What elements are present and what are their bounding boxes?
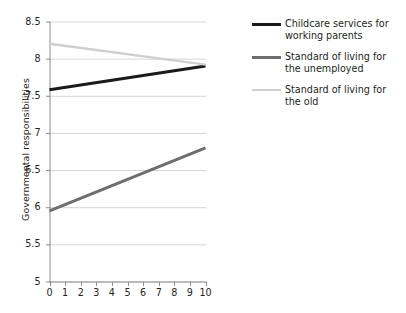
legend-label-line2: the unemployed [285, 63, 364, 74]
series-line-old [50, 44, 206, 65]
y-tick-label: 7.5 [11, 91, 41, 101]
data-lines [50, 44, 206, 211]
legend-item-old: Standard of living for the old [252, 84, 404, 109]
y-tick-label: 5.5 [11, 239, 41, 249]
legend-label-line2: working parents [285, 30, 363, 41]
legend-item-unemployed: Standard of living for the unemployed [252, 51, 404, 76]
series-line-unemployed [50, 148, 206, 211]
y-tick-label: 5 [11, 277, 41, 287]
legend-label-childcare: Childcare services for working parents [285, 18, 389, 43]
legend-label-line2: the old [285, 96, 318, 107]
legend-swatch-childcare [252, 23, 281, 26]
legend-label-old: Standard of living for the old [285, 84, 386, 109]
legend-label-line1: Standard of living for [285, 84, 386, 95]
y-tick-label: 6.5 [11, 165, 41, 175]
legend-swatch-unemployed [252, 56, 281, 59]
y-axis-title: Governmental responsibilities [20, 43, 31, 257]
legend: Childcare services for working parents S… [252, 18, 404, 116]
legend-swatch-old [252, 89, 281, 91]
y-tick-label: 8 [11, 54, 41, 64]
legend-item-childcare: Childcare services for working parents [252, 18, 404, 43]
x-tick-label: 10 [196, 288, 216, 298]
legend-label-unemployed: Standard of living for the unemployed [285, 51, 386, 76]
legend-label-line1: Standard of living for [285, 51, 386, 62]
y-tick-label: 6 [11, 202, 41, 212]
series-line-childcare [50, 66, 206, 90]
y-tick-label: 8.5 [11, 17, 41, 27]
legend-label-line1: Childcare services for [285, 18, 389, 29]
line-chart: Governmental responsibilities 8.587.576.… [0, 0, 406, 313]
y-tick-label: 7 [11, 128, 41, 138]
